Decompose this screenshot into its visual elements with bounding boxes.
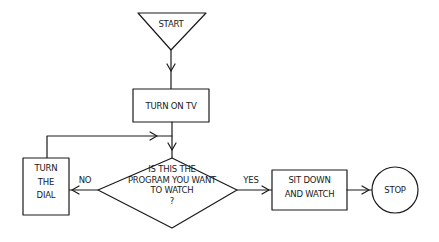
decision-label: IS THIS THE PROGRAM YOU WANT TO WATCH ? — [112, 164, 232, 207]
yes-edge-label: YES — [240, 174, 262, 186]
no-edge-label: NO — [76, 174, 94, 186]
stop-label: STOP — [372, 184, 418, 196]
edge-dial-loop-back — [47, 136, 172, 158]
turn-dial-label: TURN THE DIAL — [23, 162, 69, 203]
sit-down-label: SIT DOWN AND WATCH — [272, 174, 347, 201]
start-label: START — [148, 18, 194, 30]
turn-on-tv-label: TURN ON TV — [133, 100, 209, 112]
